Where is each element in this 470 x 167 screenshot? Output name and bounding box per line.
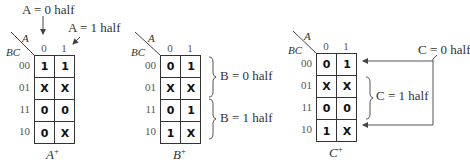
col-label: 0 bbox=[160, 42, 180, 54]
row-label: 10 bbox=[294, 123, 312, 135]
kmap-cell: 0 bbox=[35, 100, 55, 122]
kmap-cell: 1 bbox=[181, 56, 201, 78]
row-var-label: BC bbox=[6, 46, 20, 58]
row-label: 11 bbox=[294, 101, 312, 113]
col-label: 1 bbox=[336, 40, 356, 52]
row-label: 01 bbox=[12, 81, 30, 93]
col-label: 0 bbox=[34, 42, 54, 54]
kmap-cell: 1 bbox=[337, 54, 357, 76]
kmap-cell: 0 bbox=[161, 100, 181, 122]
col-label: 1 bbox=[180, 42, 200, 54]
row-label: 11 bbox=[138, 103, 156, 115]
kmap-cell: 1 bbox=[317, 120, 337, 142]
kmap-cell: 1 bbox=[35, 56, 55, 78]
kmap-cell: 0 bbox=[161, 56, 181, 78]
kmap-cell: 1 bbox=[181, 100, 201, 122]
row-label: 00 bbox=[138, 59, 156, 71]
row-label: 00 bbox=[294, 57, 312, 69]
kmap-cell: X bbox=[55, 122, 75, 144]
kmap-cell: X bbox=[181, 122, 201, 144]
row-label: 11 bbox=[12, 103, 30, 115]
kmap-cell: X bbox=[161, 78, 181, 100]
kmap-cell: 0 bbox=[35, 122, 55, 144]
a1-half-label: A = 1 half bbox=[68, 20, 120, 36]
kmap-grid: 0 1 X X 0 0 1 X bbox=[316, 53, 357, 142]
c1-half-label: C = 1 half bbox=[376, 88, 428, 104]
kmap-cell: 1 bbox=[55, 56, 75, 78]
row-var-label: BC bbox=[288, 44, 302, 56]
c0-half-label: C = 0 half bbox=[418, 42, 470, 58]
kmap-title: A+ bbox=[46, 146, 59, 163]
col-var-label: A bbox=[304, 30, 311, 42]
kmap-cell: X bbox=[317, 76, 337, 98]
kmap-title: C+ bbox=[329, 144, 343, 161]
b1-half-label: B = 1 half bbox=[220, 110, 272, 126]
col-label: 0 bbox=[316, 40, 336, 52]
b1-brace bbox=[209, 99, 216, 139]
col-label: 1 bbox=[54, 42, 74, 54]
row-label: 10 bbox=[12, 125, 30, 137]
col-var-label: A bbox=[22, 32, 29, 44]
row-var-label: BC bbox=[131, 46, 145, 58]
row-label: 01 bbox=[294, 79, 312, 91]
kmap-cell: 0 bbox=[55, 100, 75, 122]
c1-brace bbox=[366, 77, 373, 119]
kmap-cell: X bbox=[35, 78, 55, 100]
kmap-cell: 1 bbox=[161, 122, 181, 144]
kmap-grid: 0 1 X X 0 1 1 X bbox=[160, 55, 201, 144]
row-label: 10 bbox=[138, 125, 156, 137]
kmap-cell: X bbox=[181, 78, 201, 100]
kmap-cell: X bbox=[55, 78, 75, 100]
kmap-grid: 1 1 X X 0 0 0 X bbox=[34, 55, 75, 144]
kmap-cell: 0 bbox=[317, 54, 337, 76]
a1-arrow bbox=[73, 37, 80, 44]
kmap-cell: 0 bbox=[317, 98, 337, 120]
kmap-cell: 0 bbox=[337, 98, 357, 120]
col-var-label: A bbox=[148, 32, 155, 44]
a0-half-label: A = 0 half bbox=[22, 2, 74, 18]
kmap-cell: X bbox=[337, 120, 357, 142]
b0-half-label: B = 0 half bbox=[220, 68, 272, 84]
row-label: 01 bbox=[138, 81, 156, 93]
kmap-title: B+ bbox=[173, 146, 186, 163]
kmap-cell: X bbox=[337, 76, 357, 98]
b0-brace bbox=[209, 57, 216, 97]
row-label: 00 bbox=[12, 59, 30, 71]
